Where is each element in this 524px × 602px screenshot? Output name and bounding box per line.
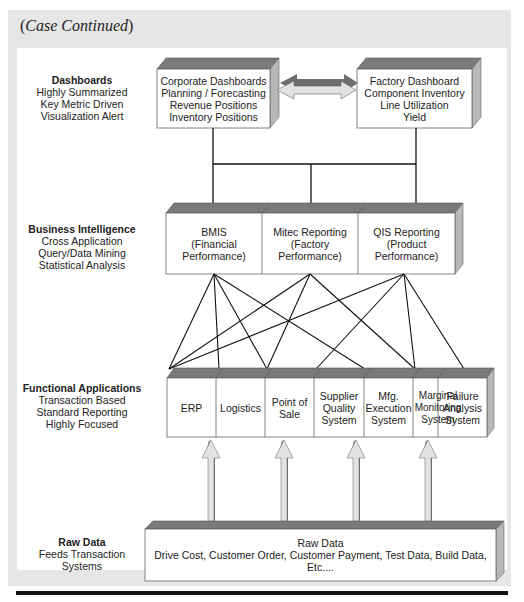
up-arrow-icon bbox=[347, 440, 365, 527]
raw-data-feed-arrows bbox=[202, 440, 437, 527]
app-mfg-execution-system: Mfg. Execution System bbox=[364, 378, 413, 437]
up-arrow-icon bbox=[275, 440, 293, 527]
app-supplier-quality-system: Supplier Quality System bbox=[314, 378, 364, 437]
raw-data-text: Raw Data Drive Cost, Customer Order, Cus… bbox=[145, 529, 496, 581]
app-failure-analysis-system: Failure Analysis System bbox=[438, 378, 487, 437]
corporate-dashboard-text: Corporate Dashboards Planning / Forecast… bbox=[157, 69, 270, 128]
bottom-rule bbox=[16, 591, 508, 595]
up-arrow-icon bbox=[202, 440, 220, 527]
factory-dashboard-text: Factory Dashboard Component Inventory Li… bbox=[357, 69, 472, 128]
tier-label-raw-data: Raw Data Feeds Transaction Systems bbox=[20, 536, 144, 572]
dashboard-connectors bbox=[213, 128, 416, 205]
bi-qis-reporting: QIS Reporting (Product Performance) bbox=[358, 213, 455, 274]
figure-page: (Case Continued) bbox=[0, 0, 524, 602]
app-logistics: Logistics bbox=[216, 378, 265, 437]
bi-bmis: BMIS (Financial Performance) bbox=[166, 213, 262, 274]
bi-mitec-reporting: Mitec Reporting (Factory Performance) bbox=[262, 213, 358, 274]
tier-label-business-intelligence: Business Intelligence Cross Application … bbox=[22, 223, 142, 271]
bi-to-app-connections bbox=[169, 274, 464, 369]
app-point-of-sale: Point of Sale bbox=[265, 378, 314, 437]
up-arrow-icon bbox=[419, 440, 437, 527]
tier-label-dashboards: Dashboards Highly Summarized Key Metric … bbox=[22, 74, 142, 122]
tier-label-functional-applications: Functional Applications Transaction Base… bbox=[22, 382, 142, 430]
app-erp: ERP bbox=[167, 378, 216, 437]
bidirectional-arrow-icon bbox=[277, 74, 358, 99]
